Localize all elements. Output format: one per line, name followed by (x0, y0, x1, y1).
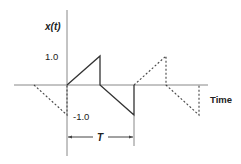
x-axis-label: Time (210, 94, 232, 105)
waveform-diagram: x(t) 1.0 -1.0 Time T (0, 0, 241, 164)
min-value-label: -1.0 (73, 111, 89, 122)
y-axis-label: x(t) (44, 21, 61, 32)
period-label: T (97, 132, 104, 143)
waveform-previous-dashed (34, 85, 67, 115)
arrowhead-right-icon (129, 136, 133, 139)
arrowhead-left-icon (68, 136, 72, 139)
max-value-label: 1.0 (45, 51, 58, 62)
